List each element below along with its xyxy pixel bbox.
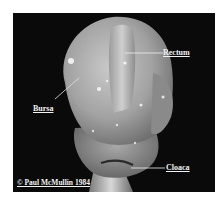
- label-bursa: Bursa: [33, 105, 53, 113]
- figure: Rectum Bursa Cloaca © Paul McMullin 1984: [0, 0, 223, 208]
- copyright-notice: © Paul McMullin 1984: [17, 179, 90, 187]
- specimen-photo: Rectum Bursa Cloaca © Paul McMullin 1984: [13, 13, 215, 192]
- label-rectum: Rectum: [163, 49, 190, 57]
- rectum-strip: [109, 25, 135, 113]
- label-cloaca: Cloaca: [166, 164, 190, 172]
